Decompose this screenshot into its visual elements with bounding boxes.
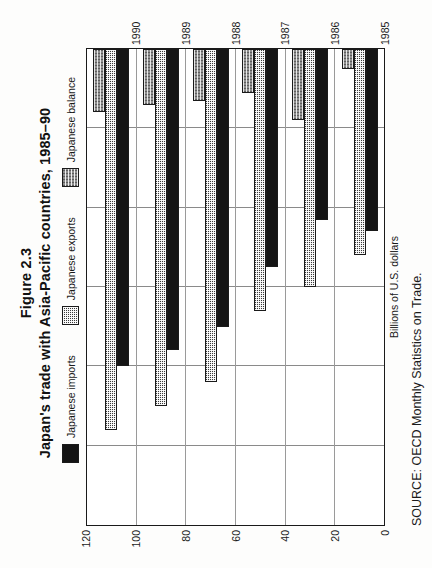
category-tick-1990: 1990 (130, 22, 142, 45)
value-axis-ticks: 120100806040200 (86, 526, 385, 552)
legend-swatch-exports-icon (62, 306, 79, 325)
category-tick-1985: 1985 (379, 22, 391, 45)
book-page: Figure 2.3 Japan's trade with Asia-Pacif… (0, 0, 432, 568)
chart-canvas (86, 48, 385, 526)
figure-source: SOURCE: OECD Monthly Statistics on Trade… (410, 14, 424, 526)
bar-1987-japanese-imports (266, 49, 278, 267)
legend-label-exports: Japanese exports (65, 217, 77, 300)
value-tick-20: 20 (329, 530, 341, 542)
bar-1989-japanese-exports (155, 49, 167, 406)
bar-group-1988 (185, 49, 235, 525)
bar-1985-japanese-imports (366, 49, 378, 231)
bar-group-1985 (334, 49, 384, 525)
bar-1990-japanese-exports (105, 49, 117, 430)
legend-label-balance: Japanese balance (65, 77, 77, 162)
legend-swatch-imports-icon (62, 444, 79, 463)
bar-1986-japanese-imports (316, 49, 328, 220)
bar-1986-japanese-balance (292, 49, 304, 120)
bar-1987-japanese-exports (254, 49, 266, 311)
bar-1990-japanese-balance (93, 49, 105, 112)
value-tick-40: 40 (279, 530, 291, 542)
bar-1990-japanese-imports (117, 49, 129, 366)
bar-groups (87, 49, 384, 525)
plot-row: 120100806040200 199019891988198719861985 (86, 14, 385, 552)
category-tick-1987: 1987 (279, 22, 291, 45)
legend-label-imports: Japanese imports (65, 355, 77, 438)
figure-title: Japan's trade with Asia-Pacific countrie… (37, 14, 53, 552)
bar-1986-japanese-exports (304, 49, 316, 287)
value-tick-100: 100 (130, 530, 142, 548)
bar-1989-japanese-balance (143, 49, 155, 105)
bar-1987-japanese-balance (242, 49, 254, 93)
bar-group-1987 (235, 49, 285, 525)
bar-group-1990 (87, 49, 136, 525)
value-tick-80: 80 (180, 530, 192, 542)
category-tick-1986: 1986 (329, 22, 341, 45)
bar-1989-japanese-imports (167, 49, 179, 350)
legend-item-balance: Japanese balance (62, 77, 79, 187)
figure-number: Figure 2.3 (18, 14, 34, 552)
value-tick-0: 0 (379, 530, 391, 536)
value-tick-120: 120 (80, 530, 92, 548)
axis-title-row: Billions of U.S. dollars (388, 14, 400, 552)
value-axis-title: Billions of U.S. dollars (388, 14, 400, 552)
bar-group-1989 (136, 49, 186, 525)
bar-1988-japanese-exports (205, 49, 217, 382)
bar-1985-japanese-balance (342, 49, 354, 69)
legend-swatch-balance-icon (62, 168, 79, 187)
plot-area: 120100806040200 199019891988198719861985… (86, 14, 400, 552)
rotated-figure-wrapper: Figure 2.3 Japan's trade with Asia-Pacif… (0, 0, 432, 568)
bar-1985-japanese-exports (354, 49, 366, 255)
chart-legend: Japanese imports Japanese exports Japane… (62, 14, 79, 552)
legend-item-imports: Japanese imports (62, 355, 79, 463)
bar-group-1986 (285, 49, 335, 525)
bar-1988-japanese-balance (193, 49, 205, 101)
category-tick-1989: 1989 (180, 22, 192, 45)
legend-item-exports: Japanese exports (62, 217, 79, 325)
value-tick-60: 60 (230, 530, 242, 542)
bar-1988-japanese-imports (217, 49, 229, 327)
category-axis-ticks: 199019891988198719861985 (86, 14, 385, 48)
figure-container: Figure 2.3 Japan's trade with Asia-Pacif… (0, 0, 432, 568)
category-tick-1988: 1988 (230, 22, 242, 45)
